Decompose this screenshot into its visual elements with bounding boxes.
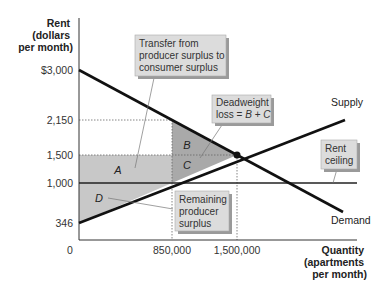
leader-transfer xyxy=(135,78,154,168)
annotation-transfer: Transfer from producer surplus to consum… xyxy=(135,35,229,79)
region-label-b: B xyxy=(183,139,190,151)
annotation-remaining: Remaining producer surplus xyxy=(175,191,232,234)
y-tick-3000: $3,000 xyxy=(41,64,73,76)
x-tick-0: 0 xyxy=(67,244,73,256)
annotation-deadweight: Deadweight loss = B + C xyxy=(212,95,274,126)
y-tick-1000: 1,000 xyxy=(47,177,73,189)
y-tick-346: 346 xyxy=(55,217,73,229)
region-label-d: D xyxy=(95,192,103,204)
x-axis-title: Quantity (apartments per month) xyxy=(304,244,367,280)
demand-label: Demand xyxy=(331,214,371,226)
y-axis-title: Rent (dollars per month) xyxy=(18,17,73,53)
annotation-rent-ceiling: Rent ceiling xyxy=(321,140,360,172)
y-tick-1500: 1,500 xyxy=(47,149,73,161)
equilibrium-point xyxy=(234,152,241,159)
supply-label: Supply xyxy=(331,96,364,108)
region-label-c: C xyxy=(183,159,191,171)
x-tick-1500000: 1,500,000 xyxy=(214,244,261,256)
region-label-a: A xyxy=(113,164,121,176)
svg-text:loss = B + C: loss = B + C xyxy=(216,109,271,120)
region-c xyxy=(172,155,237,183)
rent-ceiling-chart: Rent (dollars per month) $3,000 2,150 1,… xyxy=(0,0,389,295)
region-a xyxy=(79,155,172,183)
x-tick-850000: 850,000 xyxy=(153,244,191,256)
svg-text:Deadweight: Deadweight xyxy=(216,97,269,108)
y-tick-2150: 2,150 xyxy=(47,114,73,126)
